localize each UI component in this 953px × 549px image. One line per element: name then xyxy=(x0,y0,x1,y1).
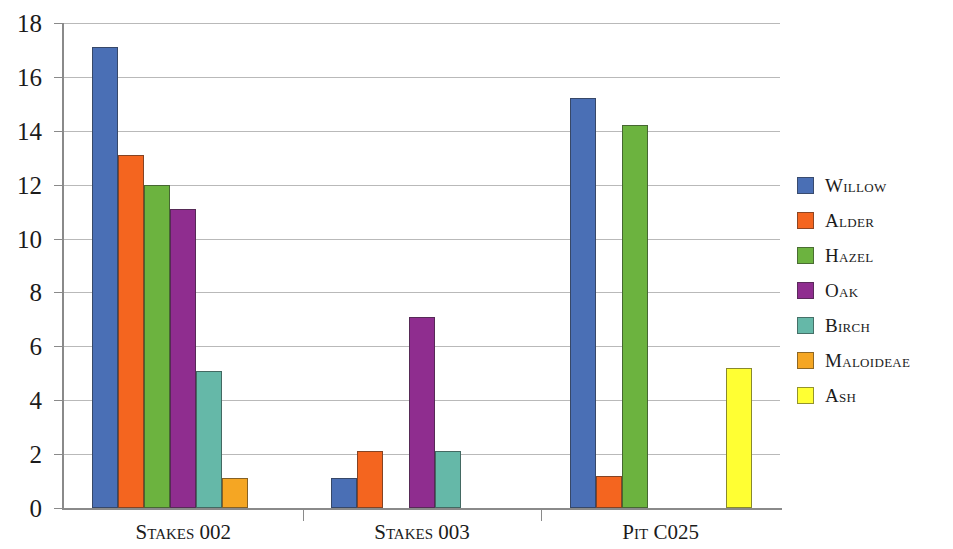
bar-chart: 181614121086420 Stakes 002Stakes 003Pit … xyxy=(0,0,953,549)
bar xyxy=(331,478,357,508)
legend-item: Alder xyxy=(797,203,953,238)
y-axis-tick-label: 4 xyxy=(0,388,42,413)
x-axis-category-label: Stakes 003 xyxy=(303,520,542,545)
legend-swatch-icon xyxy=(797,247,814,264)
legend-label: Hazel xyxy=(825,245,873,267)
x-axis: Stakes 002Stakes 003Pit C025 xyxy=(64,520,780,549)
y-axis-tick-mark xyxy=(54,508,63,509)
legend-label: Willow xyxy=(825,175,887,197)
bar xyxy=(196,371,222,508)
y-axis-tick-mark xyxy=(54,185,63,186)
legend-item: Birch xyxy=(797,308,953,343)
legend-swatch-icon xyxy=(797,212,814,229)
y-axis-tick-mark xyxy=(54,346,63,347)
legend-swatch-icon xyxy=(797,352,814,369)
bar xyxy=(144,185,170,508)
legend-item: Maloideae xyxy=(797,343,953,378)
bar-series-container xyxy=(64,23,780,508)
x-axis-line xyxy=(62,508,782,510)
x-axis-category-label: Pit C025 xyxy=(541,520,780,545)
bar xyxy=(222,478,248,508)
legend-item: Oak xyxy=(797,273,953,308)
legend-label: Ash xyxy=(825,385,856,407)
legend-label: Maloideae xyxy=(825,350,910,372)
bar xyxy=(118,155,144,508)
legend-swatch-icon xyxy=(797,282,814,299)
y-axis-tick-label: 6 xyxy=(0,334,42,359)
y-axis-tick-label: 12 xyxy=(0,172,42,197)
x-axis-category-label: Stakes 002 xyxy=(64,520,303,545)
legend-item: Ash xyxy=(797,378,953,413)
bar xyxy=(357,451,383,508)
bar xyxy=(596,476,622,508)
plot-area xyxy=(64,23,780,508)
legend-swatch-icon xyxy=(797,387,814,404)
y-axis-tick-label: 14 xyxy=(0,118,42,143)
y-axis-tick-mark xyxy=(54,77,63,78)
y-axis-tick-label: 8 xyxy=(0,280,42,305)
legend-item: Hazel xyxy=(797,238,953,273)
x-axis-group-separator xyxy=(303,509,304,521)
legend-item: Willow xyxy=(797,168,953,203)
bar xyxy=(170,209,196,508)
legend-label: Birch xyxy=(825,315,870,337)
legend-swatch-icon xyxy=(797,177,814,194)
bar xyxy=(726,368,752,508)
y-axis-tick-label: 0 xyxy=(0,496,42,521)
y-axis-tick-mark xyxy=(54,239,63,240)
y-axis-tick-label: 10 xyxy=(0,226,42,251)
bar xyxy=(622,125,648,508)
bar xyxy=(409,317,435,508)
y-axis-tick-mark xyxy=(54,23,63,24)
bar xyxy=(570,98,596,508)
legend-label: Oak xyxy=(825,280,858,302)
y-axis-tick-mark xyxy=(54,400,63,401)
legend-label: Alder xyxy=(825,210,874,232)
y-axis-tick-label: 18 xyxy=(0,11,42,36)
y-axis-tick-mark xyxy=(54,454,63,455)
bar xyxy=(92,47,118,508)
y-axis-tick-mark xyxy=(54,292,63,293)
legend-swatch-icon xyxy=(797,317,814,334)
x-axis-group-separator xyxy=(541,509,542,521)
y-axis: 181614121086420 xyxy=(0,0,42,549)
legend: WillowAlderHazelOakBirchMaloideaeAsh xyxy=(797,168,953,413)
y-axis-tick-label: 2 xyxy=(0,442,42,467)
y-axis-tick-label: 16 xyxy=(0,64,42,89)
bar xyxy=(435,451,461,508)
y-axis-tick-mark xyxy=(54,131,63,132)
